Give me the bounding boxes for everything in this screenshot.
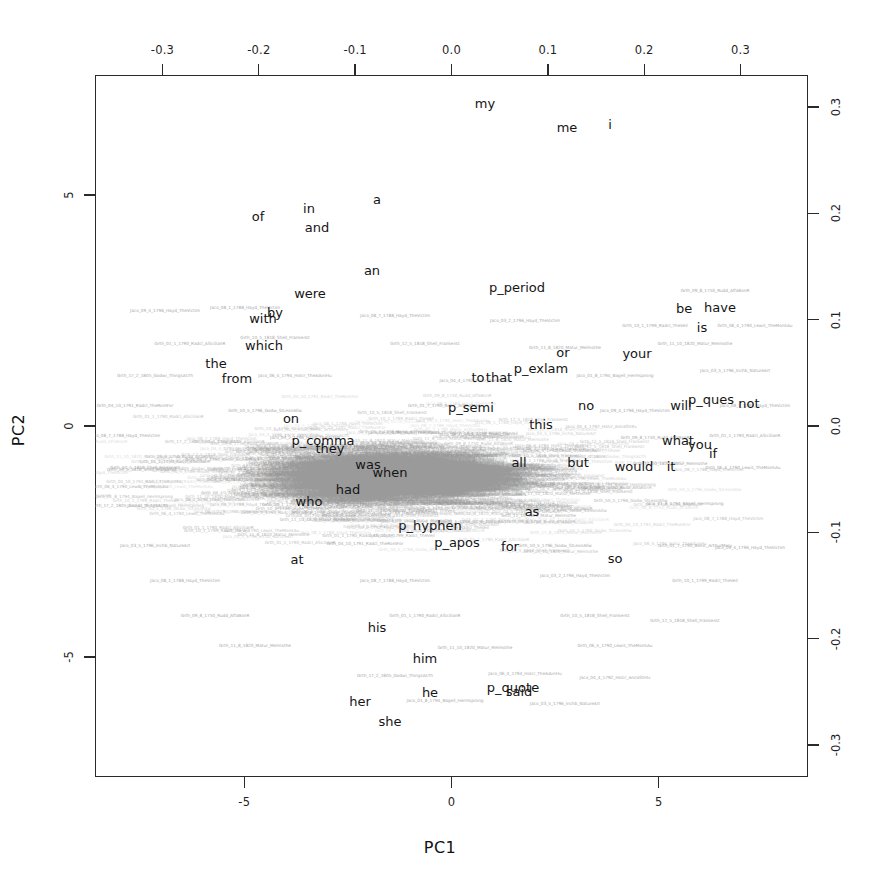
word-loading-label: it bbox=[667, 459, 676, 474]
word-loading-label: and bbox=[305, 220, 329, 235]
right-tick-mark bbox=[808, 638, 819, 639]
right-tick-mark bbox=[808, 213, 819, 214]
left-tick-label: -5 bbox=[62, 651, 76, 662]
word-loading-label: p_exlam bbox=[514, 361, 568, 376]
word-loading-label: my bbox=[475, 96, 495, 111]
biplot-figure: -0.3-0.2-0.10.00.10.20.3 0.30.20.10.0-0.… bbox=[0, 0, 880, 894]
word-loading-labels: mymeiainofandanp_periodwerebehavewithbyi… bbox=[95, 75, 808, 777]
right-tick-mark bbox=[808, 744, 819, 745]
top-tick-label: 0.2 bbox=[635, 43, 654, 57]
right-tick-mark bbox=[808, 319, 819, 320]
word-loading-label: her bbox=[349, 694, 371, 709]
word-loading-label: to bbox=[471, 370, 484, 385]
word-loading-label: said bbox=[506, 684, 533, 699]
right-tick-label: -0.3 bbox=[829, 734, 843, 756]
y-axis-title: PC2 bbox=[9, 400, 28, 460]
word-loading-label: he bbox=[422, 685, 438, 700]
word-loading-label: for bbox=[501, 539, 519, 554]
top-tick-label: 0.3 bbox=[731, 43, 750, 57]
word-loading-label: p_period bbox=[489, 280, 545, 295]
word-loading-label: an bbox=[364, 263, 380, 278]
top-tick-mark bbox=[258, 64, 259, 75]
word-loading-label: all bbox=[511, 455, 526, 470]
word-loading-label: your bbox=[622, 346, 651, 361]
word-loading-label: p_hyphen bbox=[398, 518, 461, 533]
left-tick-mark bbox=[84, 656, 95, 657]
right-tick-label: 0.3 bbox=[829, 98, 843, 116]
word-loading-label: but bbox=[567, 455, 589, 470]
right-tick-label: -0.1 bbox=[829, 521, 843, 543]
word-loading-label: were bbox=[294, 286, 326, 301]
word-loading-label: is bbox=[697, 320, 707, 335]
right-tick-label: 0.1 bbox=[829, 310, 843, 328]
top-tick-label: 0.1 bbox=[538, 43, 557, 57]
top-tick-mark bbox=[162, 64, 163, 75]
word-loading-label: p_semi bbox=[448, 400, 494, 415]
left-tick-label: 5 bbox=[62, 191, 76, 198]
word-loading-label: if bbox=[709, 446, 717, 461]
word-loading-label: had bbox=[336, 482, 360, 497]
bottom-tick-mark bbox=[451, 777, 452, 788]
word-loading-label: or bbox=[556, 345, 569, 360]
left-tick-mark bbox=[84, 425, 95, 426]
top-tick-label: 0.0 bbox=[442, 43, 461, 57]
bottom-tick-mark bbox=[244, 777, 245, 788]
word-loading-label: him bbox=[413, 651, 438, 666]
word-loading-label: who bbox=[296, 494, 323, 509]
right-tick-label: 0.0 bbox=[829, 417, 843, 435]
word-loading-label: p_ques bbox=[688, 392, 734, 407]
bottom-tick-label: 5 bbox=[655, 795, 663, 809]
word-loading-label: be bbox=[676, 301, 692, 316]
word-loading-label: from bbox=[222, 371, 252, 386]
right-tick-mark bbox=[808, 106, 819, 107]
word-loading-label: which bbox=[245, 338, 283, 353]
word-loading-label: by bbox=[267, 305, 283, 320]
bottom-tick-label: 0 bbox=[448, 795, 456, 809]
right-tick-label: 0.2 bbox=[829, 204, 843, 222]
word-loading-label: his bbox=[368, 620, 387, 635]
word-loading-label: p_apos bbox=[434, 535, 480, 550]
top-tick-mark bbox=[451, 64, 452, 75]
word-loading-label: of bbox=[252, 209, 265, 224]
word-loading-label: the bbox=[205, 356, 226, 371]
word-loading-label: i bbox=[608, 117, 612, 132]
word-loading-label: no bbox=[578, 398, 594, 413]
left-tick-label: 0 bbox=[62, 422, 76, 429]
word-loading-label: they bbox=[315, 441, 344, 456]
word-loading-label: so bbox=[608, 551, 623, 566]
word-loading-label: would bbox=[615, 459, 654, 474]
word-loading-label: in bbox=[303, 201, 315, 216]
top-tick-label: -0.2 bbox=[247, 43, 270, 57]
word-loading-label: me bbox=[557, 120, 578, 135]
top-tick-mark bbox=[644, 64, 645, 75]
top-tick-mark bbox=[354, 64, 355, 75]
word-loading-label: have bbox=[704, 300, 736, 315]
word-loading-label: that bbox=[486, 370, 512, 385]
word-loading-label: a bbox=[373, 192, 381, 207]
bottom-tick-mark bbox=[658, 777, 659, 788]
top-tick-label: -0.3 bbox=[151, 43, 174, 57]
x-axis-title: PC1 bbox=[0, 838, 880, 857]
top-tick-mark bbox=[740, 64, 741, 75]
word-loading-label: when bbox=[372, 465, 407, 480]
word-loading-label: at bbox=[290, 552, 303, 567]
bottom-tick-label: -5 bbox=[238, 795, 250, 809]
right-tick-mark bbox=[808, 532, 819, 533]
word-loading-label: as bbox=[525, 504, 540, 519]
word-loading-label: this bbox=[529, 417, 553, 432]
word-loading-label: on bbox=[283, 411, 299, 426]
right-tick-label: -0.2 bbox=[829, 627, 843, 649]
right-tick-mark bbox=[808, 425, 819, 426]
word-loading-label: she bbox=[378, 714, 401, 729]
top-tick-label: -0.1 bbox=[344, 43, 367, 57]
left-tick-mark bbox=[84, 194, 95, 195]
word-loading-label: not bbox=[738, 396, 759, 411]
top-tick-mark bbox=[547, 64, 548, 75]
